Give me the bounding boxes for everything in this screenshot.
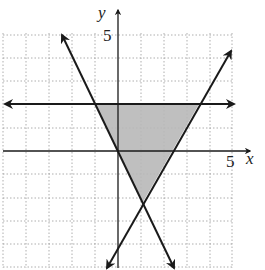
- y-axis-label: y: [96, 3, 106, 22]
- shaded-region: [95, 104, 199, 202]
- y-tick-label: 5: [103, 26, 112, 45]
- x-axis-label: x: [245, 149, 254, 168]
- x-tick-label: 5: [226, 152, 235, 171]
- inequality-graph: y 5 5 x: [0, 0, 265, 270]
